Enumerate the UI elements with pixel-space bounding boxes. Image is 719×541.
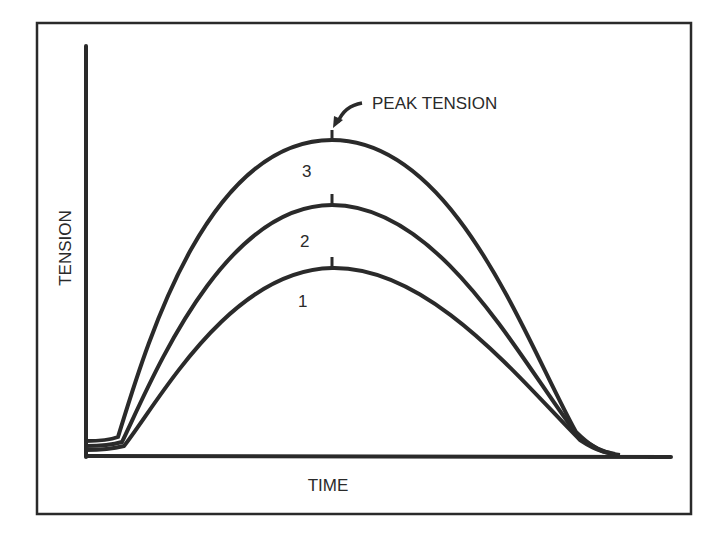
x-axis xyxy=(86,456,671,457)
curve-1-label: 1 xyxy=(298,292,307,311)
curve-2 xyxy=(86,205,615,454)
curve-3 xyxy=(86,140,610,453)
x-axis-label: TIME xyxy=(308,476,349,495)
peak-tension-label: PEAK TENSION xyxy=(372,94,497,113)
y-axis-label: TENSION xyxy=(56,210,75,286)
figure-frame xyxy=(37,23,691,514)
curve-3-label: 3 xyxy=(302,162,311,181)
tension-time-diagram: PEAK TENSION 3 2 1 TIME TENSION xyxy=(0,0,719,541)
peak-arrow-icon xyxy=(338,103,362,122)
curve-2-label: 2 xyxy=(300,232,309,251)
